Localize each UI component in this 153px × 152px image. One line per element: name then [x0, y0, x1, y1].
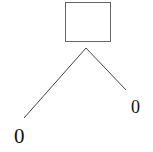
right-branch-edge	[86, 48, 126, 90]
left-leaf-label: 0	[14, 124, 25, 148]
tree-diagram: 0 0	[0, 0, 153, 152]
root-node-box	[66, 3, 111, 42]
left-branch-edge	[24, 48, 86, 118]
right-leaf-label: 0	[131, 97, 140, 117]
